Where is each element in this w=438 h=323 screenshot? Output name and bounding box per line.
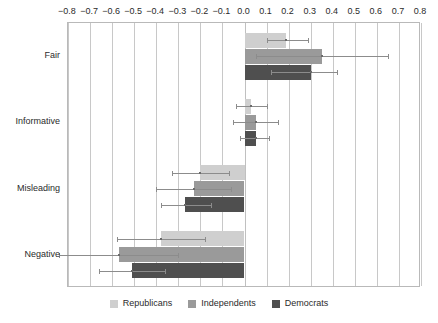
x-tick-label: −0.2 (190, 6, 208, 17)
error-bar-line (267, 40, 309, 41)
error-bar-cap (205, 237, 206, 242)
error-bar-line (161, 205, 212, 206)
error-bar-cap (256, 54, 257, 59)
error-bar-cap (229, 171, 230, 176)
x-tick-label: −0.4 (146, 6, 164, 17)
legend-swatch-icon (272, 300, 280, 308)
error-bar-line (271, 72, 337, 73)
point-estimate-marker (199, 172, 201, 174)
x-tick-label: 0.7 (392, 6, 405, 17)
error-bar-cap (337, 70, 338, 75)
point-estimate-marker (255, 137, 257, 139)
error-bar-cap (233, 120, 234, 125)
error-bar-cap (271, 70, 272, 75)
legend-swatch-icon (110, 300, 118, 308)
error-bar-cap (161, 203, 162, 208)
point-estimate-marker (310, 71, 312, 73)
x-tick-label: −0.7 (80, 6, 98, 17)
plot-area (67, 22, 420, 287)
gridline (377, 23, 378, 286)
point-estimate-marker (118, 254, 120, 256)
error-bar-cap (267, 38, 268, 43)
gridline (355, 23, 356, 286)
error-bar-cap (236, 104, 237, 109)
legend-item-ind[interactable]: Independents (188, 298, 256, 309)
error-bar-cap (99, 269, 100, 274)
x-tick-label: 0.3 (303, 6, 316, 17)
point-estimate-marker (160, 238, 162, 240)
gridline (90, 23, 91, 286)
chart-legend: RepublicansIndependentsDemocrats (0, 298, 438, 309)
error-bar-cap (240, 136, 241, 141)
gridline (421, 23, 422, 286)
y-tick-label: Informative (0, 116, 60, 127)
legend-label: Independents (201, 298, 256, 309)
legend-label: Republicans (123, 298, 173, 309)
error-bar-cap (172, 171, 173, 176)
legend-item-dem[interactable]: Democrats (272, 298, 329, 309)
y-tick-label: Negative (0, 248, 60, 259)
error-bar-cap (231, 187, 232, 192)
legend-swatch-icon (188, 300, 196, 308)
point-estimate-marker (321, 55, 323, 57)
y-tick-label: Fair (0, 50, 60, 61)
point-estimate-marker (193, 188, 195, 190)
gridline (333, 23, 334, 286)
horizontal-bar-chart: −0.8−0.7−0.6−0.5−0.4−0.3−0.2−0.10.00.10.… (0, 0, 438, 323)
x-tick-label: −0.6 (102, 6, 120, 17)
error-bar-cap (165, 269, 166, 274)
y-tick-label: Misleading (0, 182, 60, 193)
error-bar-cap (156, 187, 157, 192)
point-estimate-marker (131, 270, 133, 272)
legend-label: Democrats (285, 298, 329, 309)
x-tick-label: −0.5 (124, 6, 142, 17)
x-tick-label: 0.8 (414, 6, 427, 17)
legend-item-rep[interactable]: Republicans (110, 298, 173, 309)
point-estimate-marker (285, 39, 287, 41)
error-bar-cap (308, 38, 309, 43)
x-tick-label: 0.5 (348, 6, 361, 17)
error-bar-cap (267, 104, 268, 109)
gridline (112, 23, 113, 286)
point-estimate-marker (184, 204, 186, 206)
x-tick-label: 0.0 (237, 6, 250, 17)
x-tick-label: 0.6 (370, 6, 383, 17)
error-bar-cap (117, 237, 118, 242)
x-tick-label: −0.1 (213, 6, 231, 17)
error-bar-cap (211, 203, 212, 208)
error-bar-cap (388, 54, 389, 59)
x-tick-label: −0.8 (58, 6, 76, 17)
x-tick-label: 0.4 (325, 6, 338, 17)
error-bar-cap (269, 136, 270, 141)
x-tick-label: 0.2 (281, 6, 294, 17)
point-estimate-marker (250, 105, 252, 107)
point-estimate-marker (255, 121, 257, 123)
gridline (68, 23, 69, 286)
x-tick-label: −0.3 (168, 6, 186, 17)
error-bar-cap (278, 120, 279, 125)
x-tick-label: 0.1 (259, 6, 272, 17)
gridline (399, 23, 400, 286)
error-bar-cap (178, 253, 179, 258)
